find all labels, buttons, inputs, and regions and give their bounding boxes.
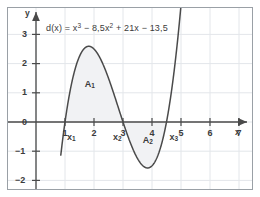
x-tick-label-5: 5 <box>179 129 184 138</box>
equation-term-2: − 8,5x <box>81 23 109 33</box>
root-label-x1: x1 <box>67 133 76 143</box>
y-tick-label-1: 1 <box>22 88 27 97</box>
equation-annotation: d(x) = x3 − 8,5x2 + 21x − 13,5 <box>46 23 168 33</box>
equation-term-3: + 21x − 13,5 <box>113 23 168 33</box>
x-tick-label-6: 6 <box>208 129 213 138</box>
y-tick-label-neg2: −2 <box>15 176 25 185</box>
y-tick-label-3: 3 <box>22 30 27 39</box>
equation-fn: d(x) = x <box>46 23 77 33</box>
function-plot-figure: d(x) = x3 − 8,5x2 + 21x − 13,5 y x 12345… <box>0 0 260 197</box>
x-tick-label-2: 2 <box>92 129 97 138</box>
area-label-A1: A1 <box>85 80 95 90</box>
y-tick-label-neg1: −1 <box>15 147 25 156</box>
y-axis-label: y <box>25 9 30 18</box>
y-tick-label-0: 0 <box>22 118 27 127</box>
y-tick-label-2: 2 <box>22 59 27 68</box>
root-label-x2: x2 <box>113 133 122 143</box>
x-tick-label-7: 7 <box>237 129 242 138</box>
area-label-A2: A2 <box>143 136 153 146</box>
root-label-x3: x3 <box>170 133 179 143</box>
